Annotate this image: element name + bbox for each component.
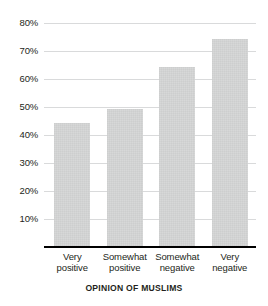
ytick-label-70: 70% [0,46,38,56]
ytick-label-50: 50% [0,102,38,112]
category-label-line-1: Very [199,251,261,262]
ytick-label-30: 30% [0,158,38,168]
x-axis-line [44,246,256,248]
ytick-label-80: 80% [0,18,38,28]
category-label-very-negative: Very negative [199,251,261,273]
ytick-label-60: 60% [0,74,38,84]
gridline-80 [44,23,256,24]
x-axis-title: OPINION OF MUSLIMS [0,283,268,293]
bar-somewhat-positive [107,109,143,246]
bar-chart: 10% 20% 30% 40% 50% 60% 70% 80% Very pos… [0,0,268,306]
ytick-label-40: 40% [0,130,38,140]
bar-very-negative [212,39,248,246]
bar-somewhat-negative [159,67,195,246]
ytick-label-10: 10% [0,214,38,224]
category-label-line-2: negative [199,262,261,273]
plot-area: 10% 20% 30% 40% 50% 60% 70% 80% [0,0,268,253]
ytick-label-20: 20% [0,186,38,196]
x-axis-category-labels: Very positive Somewhat positive Somewhat… [0,251,268,279]
bar-very-positive [54,123,90,246]
